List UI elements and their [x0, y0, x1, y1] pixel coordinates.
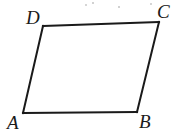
vertex-dot-b: [136, 111, 138, 113]
vertex-label-a: A: [7, 113, 19, 132]
vertex-dot-d: [42, 25, 44, 27]
vertex-dot-a: [22, 112, 24, 114]
edge-cd-line: [43, 22, 159, 26]
geometry-figure: A B C D: [0, 0, 176, 138]
edge-ab-line: [23, 112, 137, 113]
scan-speck: [85, 4, 87, 6]
edge-da-line: [23, 26, 43, 113]
scan-speck: [92, 2, 94, 4]
scan-speck: [118, 6, 119, 7]
vertex-label-b: B: [139, 112, 151, 131]
vertex-label-c: C: [157, 2, 170, 21]
scan-speck: [150, 3, 152, 5]
edge-bc-line: [137, 22, 159, 112]
vertex-label-d: D: [26, 8, 40, 27]
